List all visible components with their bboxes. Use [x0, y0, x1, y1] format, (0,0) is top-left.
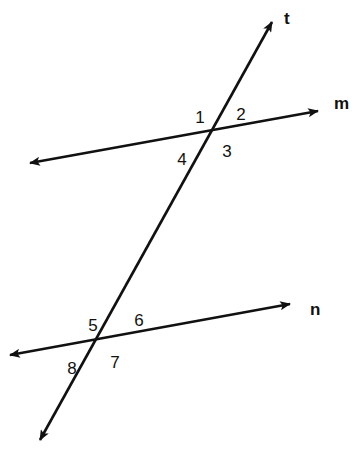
- line-m: [30, 111, 318, 163]
- line-label-t: t: [284, 9, 290, 28]
- angle-label-8: 8: [67, 359, 76, 378]
- line-label-n: n: [310, 300, 320, 319]
- geometry-diagram: t m n 1 2 3 4 5 6 7 8: [0, 0, 357, 452]
- angle-label-7: 7: [110, 353, 119, 372]
- geometry-canvas: t m n 1 2 3 4 5 6 7 8: [0, 0, 357, 452]
- angle-label-4: 4: [177, 150, 186, 169]
- angle-label-6: 6: [134, 311, 143, 330]
- angle-label-3: 3: [222, 142, 231, 161]
- line-label-m: m: [334, 94, 349, 113]
- line-n: [10, 304, 290, 355]
- angle-label-2: 2: [236, 105, 245, 124]
- angle-label-5: 5: [88, 316, 97, 335]
- angle-label-1: 1: [195, 108, 204, 127]
